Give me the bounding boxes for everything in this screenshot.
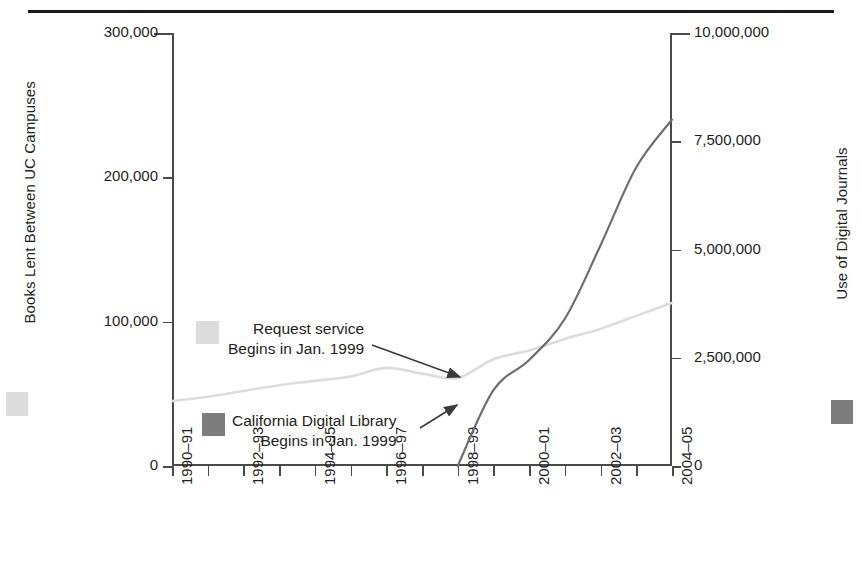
x-tick-mark (601, 466, 603, 476)
left-axis-legend-swatch (6, 392, 28, 416)
legend-swatch-california-digital-library (202, 413, 225, 436)
chart-figure: Books Lent Between UC Campuses Use of Di… (0, 0, 861, 583)
left-axis-title: Books Lent Between UC Campuses (21, 94, 38, 324)
right-tick-mark (672, 33, 681, 35)
left-tick-mark (163, 322, 172, 324)
plot-area: 0100,000200,000300,000 02,500,0005,000,0… (172, 33, 672, 466)
x-tick-mark (208, 466, 210, 476)
left-tick-label: 300,000 (104, 23, 158, 40)
annotation-cdl-line1: California Digital Library (232, 411, 397, 431)
x-tick-mark (529, 466, 531, 476)
left-tick-mark (163, 177, 172, 179)
right-tick-label: 10,000,000 (694, 23, 769, 40)
x-tick-mark (422, 466, 424, 476)
annotation-request-service-line1: Request service (228, 319, 364, 339)
right-tick-label: 5,000,000 (694, 240, 761, 257)
right-tick-label: 7,500,000 (694, 131, 761, 148)
left-tick-label: 200,000 (104, 167, 158, 184)
right-tick-label: 0 (694, 456, 702, 473)
right-tick-mark (672, 358, 681, 360)
x-tick-mark (243, 466, 245, 476)
x-tick-label: 2004–05 (678, 427, 695, 485)
x-tick-mark (458, 466, 460, 476)
right-tick-label: 2,500,000 (694, 348, 761, 365)
top-rule (28, 10, 834, 13)
right-axis-legend-swatch (831, 400, 853, 424)
arrow-california-digital-library (420, 405, 457, 428)
right-tick-mark (672, 141, 681, 143)
x-tick-mark (493, 466, 495, 476)
right-tick-mark (672, 250, 681, 252)
annotation-arrows (172, 33, 672, 466)
left-tick-mark (163, 466, 172, 468)
arrow-request-service (372, 345, 460, 377)
x-tick-mark (386, 466, 388, 476)
annotation-california-digital-library: California Digital Library Begins in Jan… (232, 411, 397, 451)
x-tick-mark (279, 466, 281, 476)
legend-swatch-request-service (196, 321, 219, 344)
x-tick-mark (172, 466, 174, 476)
x-tick-mark (672, 466, 674, 476)
x-tick-mark (351, 466, 353, 476)
right-axis-title: Use of Digital Journals (833, 124, 850, 324)
left-tick-label: 100,000 (104, 312, 158, 329)
x-tick-mark (636, 466, 638, 476)
x-tick-mark (315, 466, 317, 476)
annotation-cdl-line2: Begins in Jan. 1999 (232, 431, 397, 451)
annotation-request-service-line2: Begins in Jan. 1999 (228, 339, 364, 359)
x-tick-mark (565, 466, 567, 476)
left-tick-mark (163, 33, 172, 35)
annotation-request-service: Request service Begins in Jan. 1999 (228, 319, 364, 359)
left-tick-label: 0 (150, 456, 158, 473)
